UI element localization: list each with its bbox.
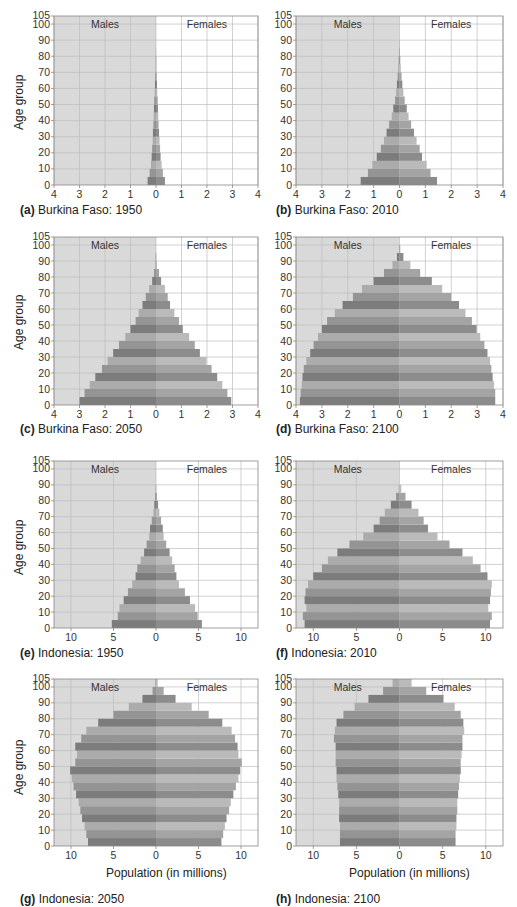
female-bar xyxy=(156,365,212,373)
male-bar xyxy=(387,129,400,137)
female-bar xyxy=(156,493,157,501)
male-bar xyxy=(303,612,400,620)
females-label: Females xyxy=(431,463,471,475)
x-tick-label: 0 xyxy=(153,849,159,861)
y-tick-label: 90 xyxy=(38,34,50,46)
female-bar xyxy=(156,169,163,177)
female-bar xyxy=(400,830,456,838)
male-bar xyxy=(306,357,399,365)
female-bar xyxy=(400,541,450,549)
y-tick-label: 60 xyxy=(280,744,292,756)
female-bar xyxy=(156,525,163,533)
female-bar xyxy=(156,687,164,695)
female-bar xyxy=(156,72,157,80)
x-tick-label: 1 xyxy=(371,188,377,200)
y-tick-label: 60 xyxy=(38,744,50,756)
caption-letter: (e) xyxy=(20,646,35,660)
caption-c: (c) Burkina Faso: 2050 xyxy=(20,422,142,436)
male-bar xyxy=(397,253,400,261)
caption-text: Burkina Faso: 1950 xyxy=(38,203,142,217)
x-tick-label: 0 xyxy=(153,408,159,420)
males-label: Males xyxy=(334,463,362,475)
female-bar xyxy=(156,774,238,782)
male-bar xyxy=(147,541,156,549)
y-tick-label: 70 xyxy=(280,510,292,522)
y-axis-label: Age group xyxy=(12,75,26,130)
male-bar xyxy=(86,830,156,838)
female-bar xyxy=(400,309,466,317)
female-bar xyxy=(156,381,222,389)
y-tick-label: 0 xyxy=(44,622,50,634)
female-bar xyxy=(400,620,491,628)
female-bar xyxy=(156,679,158,687)
female-bar xyxy=(156,588,185,596)
female-bar xyxy=(400,735,463,743)
male-bar xyxy=(340,838,400,846)
x-axis-label: Population (in millions) xyxy=(106,866,227,880)
male-bar xyxy=(146,293,156,301)
male-bar xyxy=(392,113,400,121)
male-bar xyxy=(361,177,400,185)
y-tick-label: 80 xyxy=(38,712,50,724)
female-bar xyxy=(156,572,176,580)
male-bar xyxy=(149,285,156,293)
female-bar xyxy=(400,501,412,509)
x-tick-label: 2 xyxy=(448,188,454,200)
male-bar xyxy=(353,293,400,301)
x-tick-label: 1 xyxy=(179,408,185,420)
female-bar xyxy=(400,533,438,541)
male-bar xyxy=(136,317,156,325)
x-tick-label: 2 xyxy=(102,188,108,200)
female-bar xyxy=(156,806,229,814)
male-bar xyxy=(362,285,400,293)
x-tick-label: 0 xyxy=(397,188,403,200)
y-tick-label: 90 xyxy=(38,696,50,708)
female-bar xyxy=(400,774,460,782)
female-bar xyxy=(156,261,157,269)
male-bar xyxy=(385,509,400,517)
female-bar xyxy=(400,556,473,564)
female-bar xyxy=(156,501,158,509)
female-bar xyxy=(156,822,225,830)
y-tick-label: 70 xyxy=(280,66,292,78)
female-bar xyxy=(156,580,179,588)
male-bar xyxy=(399,245,400,253)
male-bar xyxy=(81,735,156,743)
male-bar xyxy=(395,96,399,104)
x-tick-label: 3 xyxy=(474,408,480,420)
x-tick-label: 3 xyxy=(474,188,480,200)
y-tick-label: 0 xyxy=(286,840,292,852)
female-bar xyxy=(156,509,159,517)
y-tick-label: 90 xyxy=(280,255,292,267)
y-tick-label: 105 xyxy=(274,672,292,684)
female-bar xyxy=(156,838,221,846)
population-pyramid-h: MalesFemales0102030405060708090100105105… xyxy=(274,672,503,862)
male-bar xyxy=(95,373,156,381)
x-tick-label: 10 xyxy=(235,849,247,861)
caption-letter: (h) xyxy=(276,892,291,906)
x-tick-label: 2 xyxy=(345,188,351,200)
male-bar xyxy=(338,790,399,798)
female-bar xyxy=(400,517,424,525)
y-tick-label: 0 xyxy=(44,179,50,191)
y-tick-label: 70 xyxy=(280,287,292,299)
male-bar xyxy=(363,533,399,541)
y-tick-label: 50 xyxy=(38,319,50,331)
female-bar xyxy=(400,48,401,56)
female-bar xyxy=(400,137,417,145)
x-tick-label: 3 xyxy=(319,408,325,420)
male-bar xyxy=(339,814,399,822)
male-bar xyxy=(322,325,400,333)
male-bar xyxy=(377,153,400,161)
male-bar xyxy=(391,501,400,509)
female-bar xyxy=(156,301,170,309)
x-tick-label: 10 xyxy=(480,849,492,861)
y-tick-label: 20 xyxy=(280,590,292,602)
y-tick-label: 0 xyxy=(286,399,292,411)
female-bar xyxy=(400,121,412,129)
female-bar xyxy=(400,703,455,711)
male-bar xyxy=(380,517,400,525)
male-bar xyxy=(153,509,156,517)
female-bar xyxy=(156,88,157,96)
population-pyramid-f: MalesFemales0102030405060708090100105105… xyxy=(274,454,503,644)
